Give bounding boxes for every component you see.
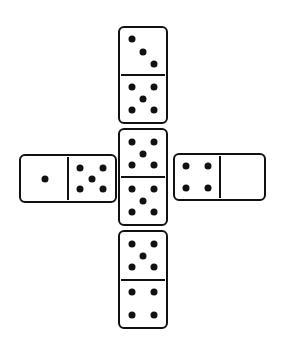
pip-dot [151, 60, 158, 67]
domino-half-first [21, 156, 68, 201]
pip-dot [128, 264, 135, 271]
pip-dot [140, 252, 147, 259]
domino-half-first [120, 28, 166, 75]
domino-middle [118, 128, 168, 226]
domino-right [173, 153, 266, 201]
pip-dot [140, 48, 147, 55]
pip-dot [151, 208, 158, 215]
pip-dot [183, 163, 190, 170]
pip-dot [151, 264, 158, 271]
domino-half-second [120, 177, 166, 224]
pip-dot [41, 175, 48, 182]
pip-dot [128, 208, 135, 215]
pip-dot [205, 184, 212, 191]
pip-dot [140, 197, 147, 204]
pip-dot [140, 150, 147, 157]
pip-dot [128, 186, 135, 193]
pip-dot [151, 311, 158, 318]
pip-dot [128, 161, 135, 168]
domino-half-first [175, 155, 220, 199]
pip-dot [128, 311, 135, 318]
pip-dot [128, 106, 135, 113]
domino-half-first [120, 232, 166, 280]
domino-half-second [68, 156, 115, 201]
pip-dot [99, 186, 106, 193]
pip-dot [205, 163, 212, 170]
pip-dot [128, 36, 135, 43]
pip-dot [151, 241, 158, 248]
pip-dot [99, 164, 106, 171]
domino-half-first [120, 130, 166, 177]
pip-dot [77, 164, 84, 171]
domino-left [19, 154, 117, 203]
pip-dot [151, 139, 158, 146]
pip-dot [151, 106, 158, 113]
pip-dot [140, 95, 147, 102]
domino-half-second [220, 155, 265, 199]
pip-dot [128, 241, 135, 248]
pip-dot [151, 161, 158, 168]
pip-dot [151, 84, 158, 91]
pip-dot [151, 186, 158, 193]
domino-half-second [120, 75, 166, 122]
domino-bottom [118, 230, 168, 329]
domino-top [118, 26, 168, 124]
pip-dot [77, 186, 84, 193]
domino-half-second [120, 280, 166, 328]
pip-dot [151, 288, 158, 295]
pip-dot [88, 175, 95, 182]
pip-dot [128, 84, 135, 91]
pip-dot [183, 184, 190, 191]
pip-dot [128, 139, 135, 146]
pip-dot [128, 288, 135, 295]
